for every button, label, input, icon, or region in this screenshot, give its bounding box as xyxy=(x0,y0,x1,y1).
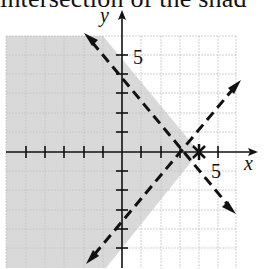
coordinate-graph: y x 5 5 xyxy=(0,0,271,269)
y-axis-label: y xyxy=(98,4,109,27)
x-tick-label-5: 5 xyxy=(211,160,221,182)
y-tick-label-5: 5 xyxy=(133,46,143,68)
x-axis-label: x xyxy=(243,152,253,174)
arrowhead-icon xyxy=(222,201,236,214)
